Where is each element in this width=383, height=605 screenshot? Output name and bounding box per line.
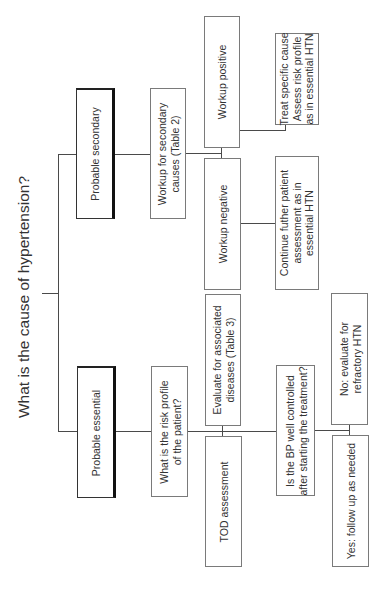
- node-label: No: evaluate for refractory HTN: [337, 322, 362, 396]
- node-workup-positive: Workup positive: [204, 16, 240, 148]
- node-yes-follow-up: Yes: follow up as needed: [332, 435, 369, 567]
- connector-negative-to-continue: [241, 223, 276, 224]
- node-risk-profile: What is the risk profile of the patient?: [151, 366, 188, 497]
- connector-to-secondary: [58, 154, 77, 155]
- node-probable-secondary: Probable secondary: [76, 88, 115, 219]
- node-label: Probable secondary: [88, 107, 101, 200]
- node-label: TOD assessment: [217, 461, 230, 542]
- connector-essential-to-risk: [116, 431, 151, 432]
- node-probable-essential: Probable essential: [77, 366, 116, 498]
- node-bp-controlled: Is the BP well controlled after starting…: [276, 365, 315, 496]
- connector-risk-split-vertical: [222, 425, 223, 436]
- connector-secondary-to-workup: [115, 154, 150, 155]
- node-label: Yes: follow up as needed: [344, 443, 357, 559]
- node-label: Continue futher patient assessment as in…: [278, 170, 316, 276]
- hypertension-flowchart: What is the cause of hypertension? Proba…: [0, 0, 383, 605]
- node-label: Evaluate for associated diseases (Table …: [211, 305, 236, 414]
- node-no-refractory: No: evaluate for refractory HTN: [331, 293, 368, 425]
- node-workup-secondary: Workup for secondary causes (Table 2): [150, 88, 186, 219]
- node-continue-assessment: Continue futher patient assessment as in…: [275, 156, 319, 290]
- connector-workup-split-vertical: [221, 147, 222, 158]
- node-tod-assessment: TOD assessment: [205, 436, 242, 567]
- node-label: Is the BP well controlled after starting…: [283, 366, 308, 495]
- node-label: Workup for secondary causes (Table 2): [156, 102, 181, 205]
- connector-workup-split: [186, 153, 222, 154]
- connector-positive-to-treat: [240, 130, 286, 131]
- connector-risk-split: [188, 431, 277, 432]
- node-label: Probable essential: [89, 389, 102, 475]
- root-stub-connector: [42, 293, 59, 294]
- connector-to-essential: [58, 431, 77, 432]
- connector-bp-split: [315, 430, 350, 431]
- node-label: Treat specific cause Assess risk profile…: [278, 33, 316, 126]
- node-label: What is the risk profile of the patient?: [157, 380, 182, 483]
- node-evaluate-associated: Evaluate for associated diseases (Table …: [205, 294, 241, 426]
- flowchart-title: What is the cause of hypertension?: [15, 176, 33, 418]
- node-label: Workup positive: [216, 45, 229, 120]
- root-bracket-connector: [58, 154, 59, 432]
- node-label: Workup negative: [216, 185, 229, 264]
- node-treat-specific: Treat specific cause Assess risk profile…: [275, 33, 319, 125]
- node-workup-negative: Workup negative: [204, 158, 241, 290]
